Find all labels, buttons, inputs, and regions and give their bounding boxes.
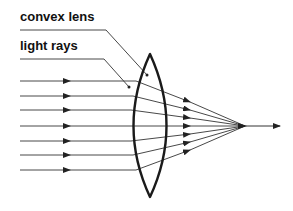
convex-lens [134,54,167,197]
label-convex-lens: convex lens [20,9,94,24]
focal-point-marker [238,123,247,129]
refracted-rays [131,81,245,170]
label-light-rays: light rays [20,38,78,53]
leader-light-rays [20,59,129,87]
incoming-rays [20,81,136,170]
lens-diagram: convex lens light rays [0,0,293,211]
